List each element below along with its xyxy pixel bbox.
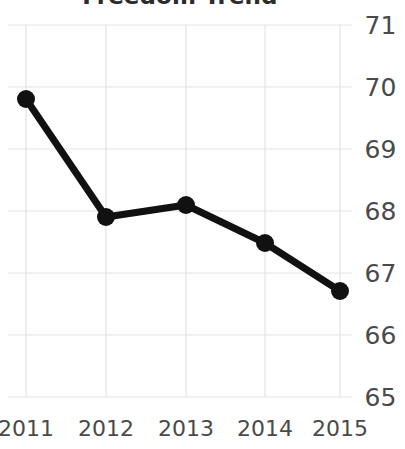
x-tick-label-2014: 2014	[237, 418, 293, 440]
y-tick-label-68: 68	[358, 199, 403, 224]
data-point-2012	[97, 208, 115, 226]
plot-svg	[0, 0, 360, 410]
x-tick-label-2011: 2011	[0, 418, 54, 440]
data-point-2014	[256, 234, 274, 252]
y-axis: 71706968676665	[358, 0, 405, 410]
y-tick-label-71: 71	[358, 13, 403, 38]
data-point-2011	[17, 90, 35, 108]
line-chart: Freedom Trend 71706968676665 20112012201…	[0, 0, 405, 449]
x-axis: 20112012201320142015	[0, 409, 360, 449]
x-tick-label-2013: 2013	[158, 418, 214, 440]
data-point-2013	[177, 196, 195, 214]
y-tick-label-66: 66	[358, 323, 403, 348]
data-point-2015	[331, 282, 349, 300]
y-tick-label-70: 70	[358, 75, 403, 100]
x-tick-label-2012: 2012	[78, 418, 134, 440]
y-tick-label-67: 67	[358, 261, 403, 286]
x-tick-label-2015: 2015	[312, 418, 368, 440]
plot-area	[0, 0, 360, 410]
data-series-line	[26, 99, 340, 291]
y-tick-label-65: 65	[358, 385, 403, 410]
y-tick-label-69: 69	[358, 137, 403, 162]
